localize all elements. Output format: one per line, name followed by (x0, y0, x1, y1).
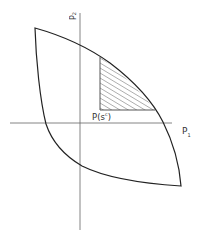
y-axis-label: P2 (70, 12, 78, 20)
point-label: P(sc) (92, 112, 111, 121)
point-label-main: P(s (92, 112, 105, 122)
y-axis-label-main: P (69, 15, 78, 20)
point-label-close: ) (108, 112, 111, 122)
shaded-region-border (100, 57, 155, 110)
x-axis-label-sub: 1 (187, 132, 190, 138)
hatched-region (95, 35, 165, 147)
frontier-curve (35, 28, 181, 186)
x-axis-label: P1 (182, 127, 191, 138)
y-axis-label-sub: 2 (71, 12, 77, 15)
